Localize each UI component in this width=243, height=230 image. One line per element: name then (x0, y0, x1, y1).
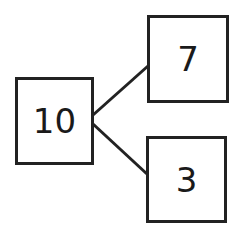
part-box-bottom: 3 (146, 136, 227, 223)
connector-whole-to-part-2 (93, 124, 147, 174)
part-value-top: 7 (177, 39, 199, 79)
whole-value: 10 (33, 101, 76, 141)
part-box-top: 7 (147, 15, 229, 103)
connector-whole-to-part-1 (93, 66, 148, 115)
part-value-bottom: 3 (176, 160, 198, 200)
whole-box: 10 (15, 77, 94, 165)
